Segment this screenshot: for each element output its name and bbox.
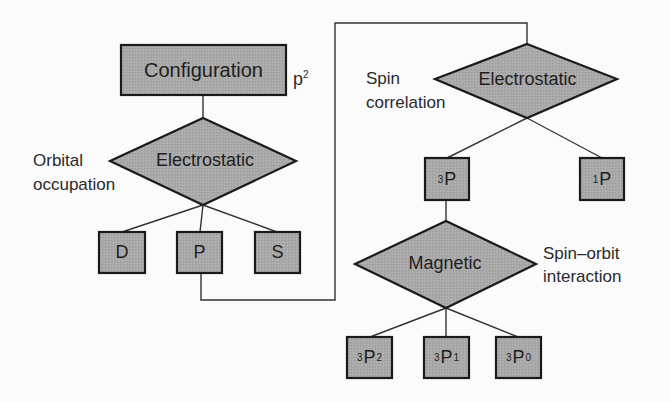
spin-electrostatic-label: Electrostatic [460,69,595,90]
level-3p1: 3P1 [424,337,469,378]
magnetic-side-label-2: interaction [543,266,621,287]
magnetic-side-label-1: Spin–orbit [543,243,620,264]
level-3p2: 3P2 [347,337,392,378]
orbital-electrostatic-label: Electrostatic [140,150,270,171]
connector-to-3p2 [370,308,446,337]
level-3p1-sup: 3 [434,352,440,363]
term-3p-base: P [444,169,456,190]
term-d: D [99,232,145,273]
magnetic-label: Magnetic [390,253,500,274]
orbital-side-label-2: occupation [33,174,115,195]
diagram-canvas [0,0,670,402]
orbital-side-label-1: Orbital [33,150,83,171]
level-3p0-sup: 3 [506,352,512,363]
level-3p1-base: P [440,347,452,368]
term-s: S [255,232,300,273]
configuration-annotation: p2 [293,64,310,90]
annotation-base: p [293,69,303,89]
term-1p-base: P [599,169,611,190]
spin-side-label-2: correlation [366,92,445,113]
term-p: P [177,232,222,273]
level-3p1-sub: 1 [454,352,460,363]
spin-side-label-1: Spin [366,68,400,89]
connector-to-1p [527,118,602,158]
connector-to-s [203,205,277,232]
connector-to-p [200,205,203,232]
term-3p-sup: 3 [438,174,444,185]
level-3p0-base: P [512,347,524,368]
level-3p2-base: P [363,347,375,368]
connector-to-d [122,205,203,232]
configuration-node: Configuration [121,45,286,95]
term-1p-sup: 1 [593,174,599,185]
connector-to-3p0 [446,308,518,337]
level-3p2-sup: 3 [357,352,363,363]
configuration-label: Configuration [144,59,263,82]
level-3p0-sub: 0 [526,352,532,363]
connector-to-3p [447,118,527,158]
level-3p2-sub: 2 [377,352,383,363]
annotation-sup: 2 [303,69,309,80]
term-3p: 3P [425,158,469,200]
term-1p: 1P [580,158,624,200]
level-3p0: 3P0 [496,337,541,378]
